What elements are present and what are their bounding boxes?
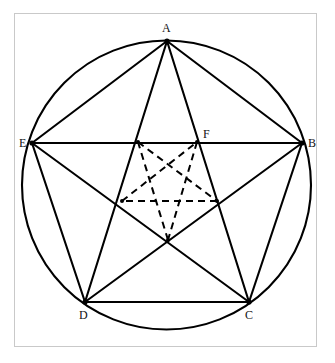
geometry-canvas bbox=[0, 0, 335, 363]
circumscribed-circle-group bbox=[22, 41, 311, 330]
vertex-dot-a bbox=[164, 38, 169, 43]
vertex-label-b: B bbox=[308, 137, 316, 149]
pentagram-diagonal-DA bbox=[85, 41, 167, 302]
inner-dashed-diagonal-I5I2 bbox=[138, 142, 217, 201]
vertex-label-f: F bbox=[203, 128, 210, 140]
figure-root: ABCDEF bbox=[0, 0, 335, 363]
inner-dashed-diagonal-FI3 bbox=[168, 142, 197, 240]
inner-vertex-dot-i3 bbox=[166, 238, 170, 242]
vertex-label-c: C bbox=[245, 309, 253, 321]
vertex-label-e: E bbox=[19, 137, 26, 149]
inner-vertex-dot-f bbox=[195, 140, 199, 144]
inner-dashed-diagonal-I3I5 bbox=[138, 142, 168, 240]
vertex-dot-c bbox=[246, 299, 251, 304]
pentagram-diagonal-CE bbox=[32, 143, 249, 302]
vertex-dot-e bbox=[29, 140, 34, 145]
pentagram-diagonal-AC bbox=[167, 41, 249, 302]
vertex-label-a: A bbox=[162, 22, 171, 34]
inner-vertex-dot-i4 bbox=[120, 199, 124, 203]
pentagon-edge-AB bbox=[167, 41, 302, 143]
vertex-label-d: D bbox=[79, 309, 88, 321]
pentagon-edge-BC bbox=[249, 143, 302, 302]
inner-vertex-dot-i5 bbox=[136, 140, 140, 144]
pentagon-edge-DE bbox=[32, 143, 85, 302]
inner-vertex-dot-i2 bbox=[215, 199, 219, 203]
vertex-dot-d bbox=[82, 299, 87, 304]
circumscribed-circle bbox=[22, 41, 311, 330]
vertex-dot-b bbox=[299, 140, 304, 145]
pentagram-diagonal-BD bbox=[85, 143, 302, 302]
